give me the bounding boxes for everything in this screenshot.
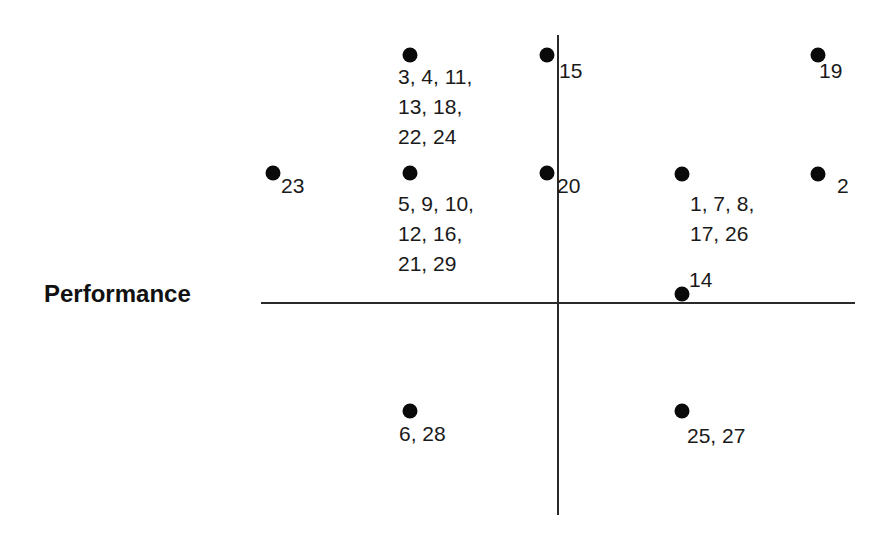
data-point-dot xyxy=(266,166,281,181)
data-point-dot xyxy=(675,287,690,302)
horizontal-axis xyxy=(261,302,855,304)
data-point-label: 23 xyxy=(281,171,304,201)
data-point-label: 19 xyxy=(819,56,842,86)
data-point-label: 2 xyxy=(837,171,849,201)
data-point-label: 15 xyxy=(559,56,582,86)
data-point-label: 1, 7, 8, 17, 26 xyxy=(690,189,754,249)
data-point-label: 14 xyxy=(689,265,712,295)
data-point-dot xyxy=(403,404,418,419)
data-point-label: 6, 28 xyxy=(399,419,446,449)
axis-label-performance: Performance xyxy=(44,280,191,308)
data-point-dot xyxy=(811,167,826,182)
data-point-dot xyxy=(403,166,418,181)
data-point-label: 3, 4, 11, 13, 18, 22, 24 xyxy=(398,62,472,152)
data-point-label: 5, 9, 10, 12, 16, 21, 29 xyxy=(398,189,474,279)
vertical-axis xyxy=(557,35,559,515)
data-point-label: 20 xyxy=(557,171,580,201)
data-point-dot xyxy=(675,167,690,182)
data-point-dot xyxy=(675,404,690,419)
data-point-label: 25, 27 xyxy=(687,421,745,451)
data-point-dot xyxy=(540,48,555,63)
data-point-dot xyxy=(540,166,555,181)
data-point-dot xyxy=(403,48,418,63)
